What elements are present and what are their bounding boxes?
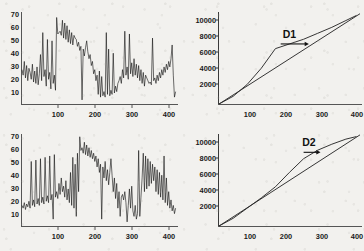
x-tick-300: 300 [126, 110, 138, 119]
panel-bottom-left: 70 60 50 40 30 20 10 100 200 300 400 [0, 125, 182, 251]
signal-trace-top-left [22, 17, 176, 99]
y-tick-40: 40 [11, 171, 19, 180]
x-tick-300: 300 [126, 232, 138, 241]
y-tick-60: 60 [11, 23, 19, 32]
x-axis-ticks-top-left [58, 105, 169, 109]
x-axis-ticklabels-bottom-left: 100 200 300 400 [52, 232, 175, 241]
x-axis-ticklabels-bottom-right: 100 200 300 400 [244, 232, 363, 241]
x-tick-200: 200 [280, 110, 292, 119]
plot-top-right: 10000 8000 6000 4000 2000 100 200 300 40… [182, 0, 364, 125]
x-tick-400: 400 [351, 110, 363, 119]
annotation-d2-label: D2 [302, 136, 316, 148]
y-axis-ticklabels-bottom-left: 70 60 50 40 30 20 10 [11, 132, 19, 219]
y-tick-30: 30 [11, 62, 19, 71]
x-tick-300: 300 [316, 110, 328, 119]
x-tick-400: 400 [351, 232, 363, 241]
x-tick-200: 200 [280, 232, 292, 241]
annotation-d2-arrowhead [316, 150, 320, 155]
x-tick-200: 200 [89, 110, 101, 119]
annotation-d1-arrowhead [305, 42, 309, 47]
y-tick-20: 20 [11, 197, 19, 206]
y-tick-6000: 6000 [200, 170, 216, 179]
y-tick-10: 10 [11, 89, 19, 97]
annotation-d1-label: D1 [283, 28, 297, 40]
y-tick-4000: 4000 [200, 64, 216, 73]
y-axis-ticklabels-top-left: 70 60 50 40 30 20 10 [11, 10, 19, 97]
y-axis-ticklabels-bottom-right: 10000 8000 6000 4000 2000 [195, 138, 216, 211]
x-axis-ticklabels-top-left: 100 200 300 400 [52, 110, 175, 119]
x-axis-ticks-bottom-left [58, 227, 169, 231]
plot-top-left: 70 60 50 40 30 20 10 100 200 300 400 [0, 0, 182, 125]
y-tick-70: 70 [11, 132, 19, 141]
y-tick-50: 50 [11, 158, 19, 167]
y-tick-50: 50 [11, 36, 19, 45]
x-tick-200: 200 [89, 232, 101, 241]
x-tick-100: 100 [244, 232, 256, 241]
x-tick-400: 400 [163, 232, 175, 241]
y-tick-10: 10 [11, 211, 19, 219]
x-tick-100: 100 [52, 232, 64, 241]
y-tick-4000: 4000 [200, 186, 216, 195]
y-tick-2000: 2000 [200, 80, 216, 89]
x-tick-300: 300 [316, 232, 328, 241]
y-tick-30: 30 [11, 184, 19, 193]
y-tick-60: 60 [11, 145, 19, 154]
annotation-d1: D1 [281, 28, 309, 47]
figure-container: 70 60 50 40 30 20 10 100 200 300 400 [0, 0, 364, 251]
plot-bottom-left: 70 60 50 40 30 20 10 100 200 300 400 [0, 125, 182, 251]
y-tick-40: 40 [11, 49, 19, 58]
y-tick-8000: 8000 [200, 32, 216, 41]
y-tick-10000: 10000 [195, 16, 216, 25]
panel-top-left: 70 60 50 40 30 20 10 100 200 300 400 [0, 0, 182, 125]
y-tick-2000: 2000 [200, 202, 216, 211]
panel-top-right: 10000 8000 6000 4000 2000 100 200 300 40… [182, 0, 364, 125]
x-tick-100: 100 [244, 110, 256, 119]
x-tick-400: 400 [163, 110, 175, 119]
plot-bottom-right: 10000 8000 6000 4000 2000 100 200 300 40… [182, 125, 364, 251]
signal-trace-bottom-left [22, 137, 176, 222]
y-tick-70: 70 [11, 10, 19, 19]
panel-bottom-right: 10000 8000 6000 4000 2000 100 200 300 40… [182, 125, 364, 251]
x-axis-ticklabels-top-right: 100 200 300 400 [244, 110, 363, 119]
y-tick-8000: 8000 [200, 154, 216, 163]
reference-diagonal-bottom-right [219, 135, 360, 226]
y-tick-20: 20 [11, 75, 19, 84]
annotation-d2: D2 [302, 136, 320, 155]
x-tick-100: 100 [52, 110, 64, 119]
y-tick-6000: 6000 [200, 48, 216, 57]
y-tick-10000: 10000 [195, 138, 216, 147]
y-axis-ticklabels-top-right: 10000 8000 6000 4000 2000 [195, 16, 216, 89]
